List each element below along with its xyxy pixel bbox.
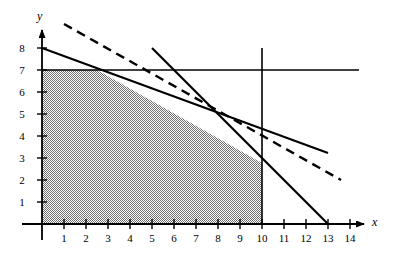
x-tick-label-12: 12 [296, 233, 316, 244]
x-tick-label-4: 4 [122, 233, 138, 244]
x-tick-label-5: 5 [144, 233, 160, 244]
x-tick-label-13: 13 [318, 233, 338, 244]
x-tick-label-2: 2 [78, 233, 94, 244]
y-tick-label-5: 5 [14, 109, 30, 120]
x-tick-label-3: 3 [100, 233, 116, 244]
y-axis-label: y [37, 10, 42, 22]
y-tick-label-3: 3 [14, 153, 30, 164]
plot-area [0, 0, 394, 256]
x-axis-label: x [372, 216, 377, 228]
x-tick-label-9: 9 [232, 233, 248, 244]
x-tick-label-10: 10 [252, 233, 272, 244]
y-tick-label-8: 8 [14, 43, 30, 54]
y-tick-label-4: 4 [14, 131, 30, 142]
x-tick-label-14: 14 [340, 233, 360, 244]
x-tick-label-1: 1 [56, 233, 72, 244]
y-tick-label-6: 6 [14, 87, 30, 98]
graph-figure: y x 1 2 3 4 5 6 7 8 1 2 3 4 5 6 7 8 9 10… [0, 0, 394, 256]
x-tick-label-7: 7 [188, 233, 204, 244]
x-tick-label-11: 11 [274, 233, 294, 244]
y-tick-label-2: 2 [14, 175, 30, 186]
x-tick-label-6: 6 [166, 233, 182, 244]
y-tick-label-1: 1 [14, 197, 30, 208]
y-tick-label-7: 7 [14, 65, 30, 76]
feasible-region-shading [42, 70, 262, 224]
x-tick-label-8: 8 [210, 233, 226, 244]
